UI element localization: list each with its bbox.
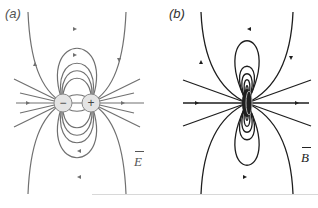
electric-field-label: E [134,154,142,170]
electric-dipole-panel: − + (a) E [0,0,159,208]
electric-field-lines: − + [0,0,159,208]
magnetic-field-lines [159,0,318,208]
magnetic-field-label: B [301,150,309,166]
magnetic-dipole-panel: (b) B [159,0,318,208]
divider-line [92,194,318,195]
panel-b-label: (b) [169,6,185,21]
panel-a-label: (a) [5,6,21,21]
positive-sign: + [87,96,94,110]
negative-sign: − [59,96,66,110]
